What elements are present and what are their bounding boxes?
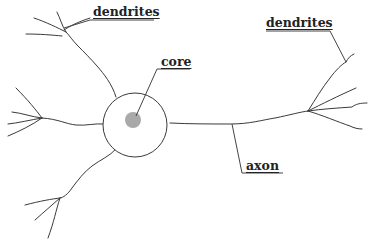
dendrite-lower-left xyxy=(25,149,116,238)
label-dendrites-left: dendrites xyxy=(93,6,160,19)
label-dendrites-right: dendrites xyxy=(266,17,333,30)
leader-dendrites-right xyxy=(266,31,346,62)
dendrite-left xyxy=(8,88,104,136)
label-axon: axon xyxy=(246,160,279,173)
neuron-drawing xyxy=(0,0,369,243)
dendrite-upper-left xyxy=(26,12,116,97)
label-core: core xyxy=(161,56,192,69)
dendrite-right xyxy=(308,54,367,129)
neuron-diagram: dendrites core dendrites axon xyxy=(0,0,369,243)
axon xyxy=(170,111,308,124)
leader-dendrites-left xyxy=(64,20,154,28)
core-nucleus xyxy=(125,112,141,128)
